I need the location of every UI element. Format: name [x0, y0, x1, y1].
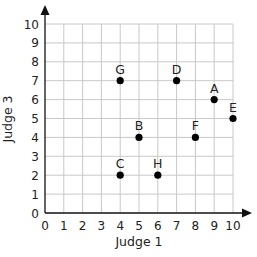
point-marker-icon [211, 96, 218, 103]
data-point-g: G [115, 62, 125, 85]
point-marker-icon [117, 77, 124, 84]
data-point-c: C [116, 156, 125, 179]
x-tick-label: 5 [135, 219, 143, 233]
axes [41, 5, 253, 218]
y-tick-label: 3 [31, 150, 39, 164]
point-label: D [172, 62, 182, 77]
data-point-b: B [135, 118, 144, 141]
y-tick-labels: 012345678910 [24, 18, 39, 221]
data-point-a: A [210, 81, 219, 104]
data-point-h: H [153, 156, 162, 179]
y-tick-label: 1 [31, 188, 39, 202]
point-marker-icon [117, 172, 124, 179]
point-marker-icon [229, 115, 236, 122]
x-tick-label: 2 [79, 219, 87, 233]
x-tick-label: 3 [98, 219, 106, 233]
y-tick-label: 0 [31, 207, 39, 221]
x-tick-label: 4 [116, 219, 124, 233]
data-point-f: F [192, 118, 199, 141]
point-label: F [192, 118, 199, 133]
point-label: H [153, 156, 162, 171]
x-tick-label: 1 [60, 219, 68, 233]
x-tick-label: 10 [225, 219, 240, 233]
y-tick-label: 9 [31, 36, 39, 50]
point-label: C [116, 156, 125, 171]
point-marker-icon [154, 172, 161, 179]
x-tick-label: 6 [154, 219, 162, 233]
point-label: E [229, 100, 237, 115]
x-tick-label: 9 [210, 219, 218, 233]
y-tick-label: 2 [31, 169, 39, 183]
point-label: B [135, 118, 144, 133]
data-point-d: D [172, 62, 182, 85]
point-label: A [210, 81, 219, 96]
point-marker-icon [135, 134, 142, 141]
scatter-chart: 012345678910 012345678910 Judge 1 Judge … [0, 0, 257, 257]
point-marker-icon [192, 134, 199, 141]
y-tick-label: 4 [31, 131, 39, 145]
x-axis-label: Judge 1 [114, 234, 162, 249]
y-axis-arrow-icon [41, 5, 50, 15]
y-tick-label: 6 [31, 93, 39, 107]
x-tick-label: 7 [173, 219, 181, 233]
y-tick-label: 7 [31, 74, 39, 88]
x-tick-labels: 012345678910 [41, 219, 240, 233]
x-tick-label: 8 [192, 219, 200, 233]
y-tick-label: 5 [31, 112, 39, 126]
point-marker-icon [173, 77, 180, 84]
x-tick-label: 0 [41, 219, 49, 233]
y-tick-label: 8 [31, 55, 39, 69]
y-axis-label: Judge 3 [0, 95, 15, 143]
point-label: G [115, 62, 125, 77]
x-axis-arrow-icon [242, 209, 252, 218]
y-tick-label: 10 [24, 18, 39, 32]
data-point-e: E [229, 100, 237, 123]
